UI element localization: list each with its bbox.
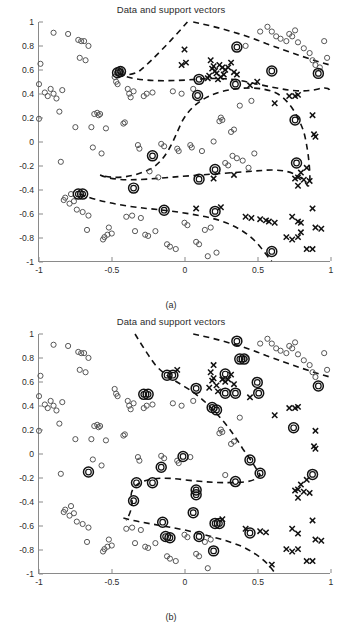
data-point-circle xyxy=(80,209,85,214)
data-point-circle xyxy=(48,86,53,91)
xtick-label-a-4: 1 xyxy=(329,265,334,275)
support-vector-marker xyxy=(290,115,300,125)
data-point-circle xyxy=(42,90,47,95)
support-vector-marker xyxy=(158,517,168,527)
data-point-circle xyxy=(223,472,228,477)
ytick-label-a-5: 0 xyxy=(29,137,34,147)
panel-a-title: Data and support vectors xyxy=(0,4,342,15)
data-point-x xyxy=(298,482,303,487)
support-vector-marker xyxy=(129,183,139,193)
data-point-circle xyxy=(284,39,289,44)
ytick-label-b-8: 0.6 xyxy=(22,377,34,387)
ytick-mark-b-0 xyxy=(39,574,43,575)
ytick-label-a-9: 0.8 xyxy=(22,41,34,51)
data-point-circle xyxy=(71,511,76,516)
data-point-circle xyxy=(205,254,210,259)
data-point-circle xyxy=(322,351,327,356)
panel-b-scatter-canvas xyxy=(39,334,330,573)
data-point-x xyxy=(221,72,226,77)
data-point-x xyxy=(211,176,216,181)
xtick-mark-a-3 xyxy=(258,257,259,261)
data-point-circle xyxy=(74,519,79,524)
support-vector-marker xyxy=(292,158,302,168)
data-point-circle xyxy=(258,29,263,34)
ytick-label-a-3: -0.4 xyxy=(19,185,34,195)
data-point-circle xyxy=(214,250,219,255)
data-point-circle xyxy=(90,145,95,150)
data-point-circle xyxy=(122,432,127,437)
data-point-circle xyxy=(307,50,312,55)
data-point-circle xyxy=(202,227,207,232)
data-point-circle xyxy=(54,408,59,413)
data-point-x xyxy=(289,549,294,554)
data-point-x xyxy=(234,72,239,77)
ytick-label-a-10: 1 xyxy=(29,17,34,27)
decision-boundary-b-2 xyxy=(123,518,274,573)
data-point-circle xyxy=(278,348,283,353)
xtick-mark-a-1 xyxy=(112,257,113,261)
decision-boundary-a-4 xyxy=(80,194,272,261)
xtick-label-a-2: 0 xyxy=(183,265,188,275)
ytick-mark-a-9 xyxy=(39,46,43,47)
data-point-circle xyxy=(66,31,71,36)
data-point-circle xyxy=(68,503,73,508)
xtick-mark-a-2 xyxy=(185,257,186,261)
data-point-circle xyxy=(51,91,56,96)
data-point-x xyxy=(310,246,315,251)
data-point-x xyxy=(301,489,306,494)
xtick-mark-b-0 xyxy=(39,569,40,573)
data-point-circle xyxy=(150,90,155,95)
data-point-circle xyxy=(103,438,108,443)
xtick-label-b-1: -0.5 xyxy=(105,577,120,587)
data-point-circle xyxy=(237,103,242,108)
panel-b-plot-area: -1-0.8-0.6-0.4-0.200.20.40.60.81-1-0.500… xyxy=(38,334,330,574)
xtick-mark-a-0 xyxy=(39,257,40,261)
data-point-circle xyxy=(86,213,91,218)
support-vector-marker xyxy=(209,546,219,556)
xtick-label-a-3: 0.5 xyxy=(252,265,264,275)
ytick-mark-a-6 xyxy=(39,118,43,119)
ytick-mark-b-5 xyxy=(39,454,43,455)
data-point-circle xyxy=(156,175,161,180)
data-point-circle xyxy=(86,525,91,530)
data-point-circle xyxy=(324,367,329,372)
panel-a-label: (a) xyxy=(0,300,342,310)
data-point-x xyxy=(284,234,289,239)
ytick-label-b-2: -0.6 xyxy=(19,521,34,531)
data-point-circle xyxy=(106,225,111,230)
data-point-circle xyxy=(150,402,155,407)
data-point-circle xyxy=(292,340,297,345)
ytick-label-a-2: -0.6 xyxy=(19,209,34,219)
data-point-circle xyxy=(132,229,137,234)
panel-a-scatter-canvas xyxy=(39,22,330,261)
support-vector-marker xyxy=(148,478,158,488)
data-point-circle xyxy=(74,207,79,212)
data-point-x xyxy=(310,558,315,563)
data-point-x xyxy=(263,530,268,535)
data-point-circle xyxy=(208,537,213,542)
decision-boundary-a-3 xyxy=(100,88,310,186)
data-point-x xyxy=(272,413,277,418)
panel-a: Data and support vectors -1-0.8-0.6-0.4-… xyxy=(0,0,342,312)
data-point-x xyxy=(304,165,309,170)
data-point-x xyxy=(243,214,248,219)
ytick-label-b-10: 1 xyxy=(29,329,34,339)
support-vector-marker xyxy=(267,246,277,256)
xtick-label-a-0: -1 xyxy=(35,265,43,275)
data-point-circle xyxy=(295,352,300,357)
support-vector-marker xyxy=(313,381,323,391)
support-vector-marker xyxy=(254,388,264,398)
data-point-circle xyxy=(60,88,65,93)
data-point-x xyxy=(298,230,303,235)
data-point-x xyxy=(208,58,213,63)
data-point-x xyxy=(310,206,315,211)
panel-b-title: Data and support vectors xyxy=(0,316,342,327)
data-point-x xyxy=(310,518,315,523)
panel-b: Data and support vectors -1-0.8-0.6-0.4-… xyxy=(0,312,342,624)
data-point-x xyxy=(284,546,289,551)
data-point-x xyxy=(295,183,300,188)
panel-b-label: (b) xyxy=(0,612,342,622)
data-point-circle xyxy=(249,98,254,103)
data-point-circle xyxy=(132,541,137,546)
support-vector-marker xyxy=(148,151,158,161)
